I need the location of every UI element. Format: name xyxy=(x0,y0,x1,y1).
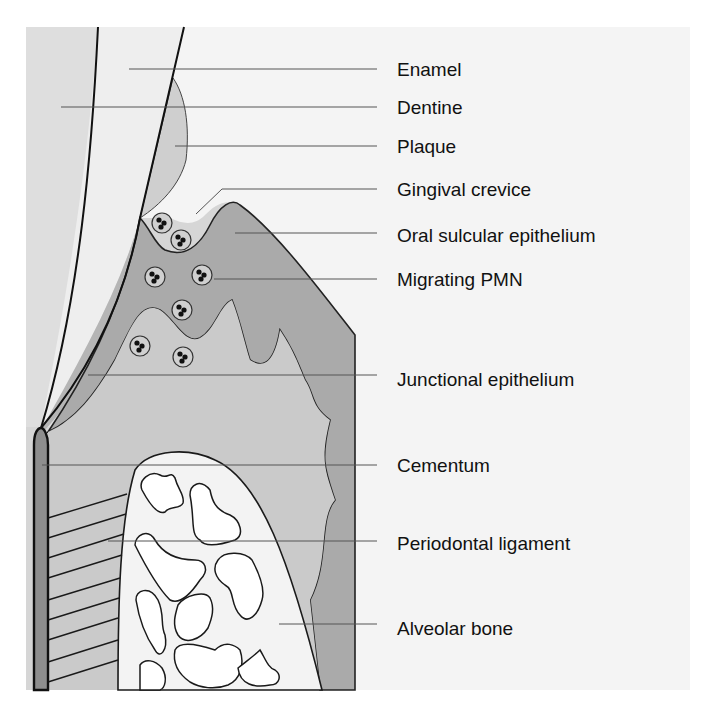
label-gingival-crevice: Gingival crevice xyxy=(397,180,531,199)
label-dentine: Dentine xyxy=(397,98,463,117)
label-enamel: Enamel xyxy=(397,60,461,79)
cementum-region xyxy=(34,428,48,690)
label-junctional-epithelium: Junctional epithelium xyxy=(397,370,574,389)
label-alveolar-bone: Alveolar bone xyxy=(397,619,513,638)
label-panel-background xyxy=(355,27,690,690)
label-periodontal-ligament: Periodontal ligament xyxy=(397,534,570,553)
periodontium-diagram xyxy=(0,0,706,702)
label-migrating-pmn: Migrating PMN xyxy=(397,270,523,289)
label-oral-sulcular-epithelium: Oral sulcular epithelium xyxy=(397,226,596,245)
label-cementum: Cementum xyxy=(397,456,490,475)
label-plaque: Plaque xyxy=(397,137,456,156)
